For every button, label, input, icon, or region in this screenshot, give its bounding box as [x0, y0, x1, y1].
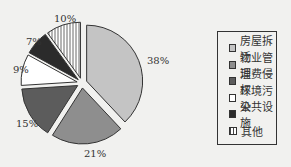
swatch-icon: [229, 77, 236, 85]
label-fangwu: 38%: [147, 55, 169, 66]
swatch-icon: [229, 61, 236, 69]
label-qita: 10%: [54, 13, 76, 24]
swatch-icon: [229, 127, 237, 135]
label-gonggong: 7%: [26, 36, 42, 47]
legend: 房屋拆迁 物业管理 消费侵权 环境污染 公共设施 其他: [217, 31, 277, 145]
legend-item: 公共设施: [229, 106, 276, 123]
label-xiaofei: 15%: [16, 118, 38, 129]
label-wuye: 21%: [84, 148, 106, 159]
label-huanjing: 9%: [13, 64, 29, 75]
swatch-icon: [229, 110, 236, 118]
swatch-icon: [229, 94, 236, 102]
swatch-icon: [229, 44, 236, 52]
